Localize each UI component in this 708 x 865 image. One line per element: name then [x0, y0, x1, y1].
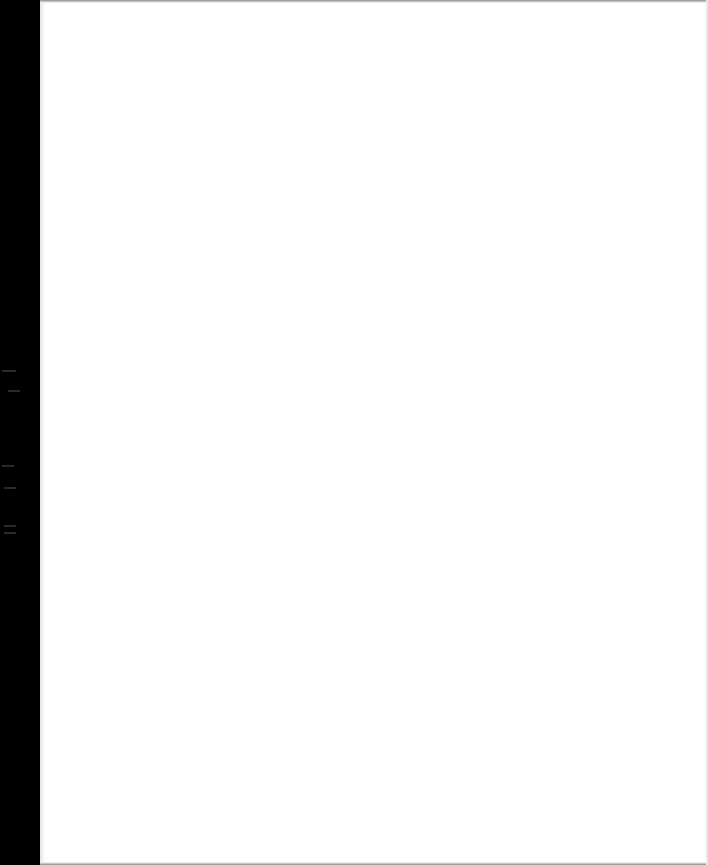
- scan-artifact: [2, 370, 16, 372]
- document-page: [40, 0, 708, 865]
- scan-artifact: [8, 390, 20, 392]
- scan-artifact: [4, 525, 16, 527]
- scan-artifact: [4, 487, 16, 489]
- scan-artifact: [4, 532, 16, 534]
- scan-artifact: [2, 465, 14, 467]
- scanner-border: [0, 0, 42, 865]
- page-content: [40, 0, 708, 865]
